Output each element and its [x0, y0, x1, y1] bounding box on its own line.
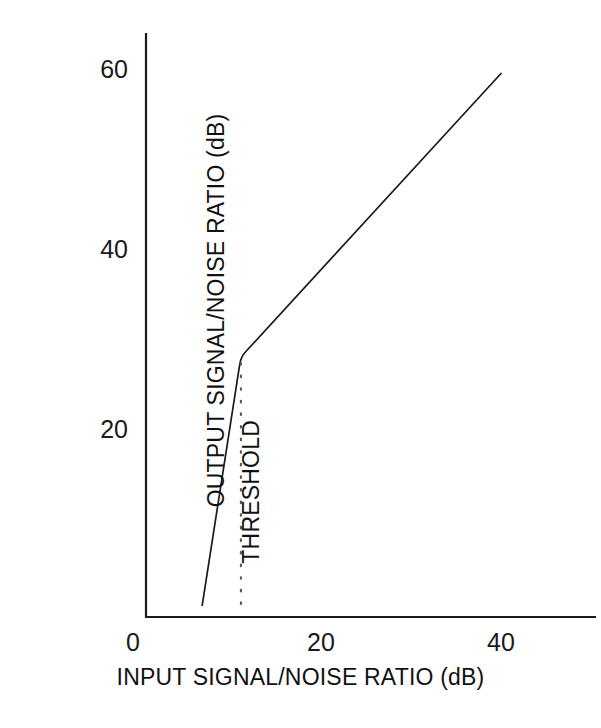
x-tick-label-0: 0	[126, 630, 140, 655]
x-tick-label-40: 40	[487, 630, 515, 655]
y-axis-title-container: OUTPUT SIGNAL/NOISE RATIO (dB)	[0, 0, 90, 620]
x-axis-title: INPUT SIGNAL/NOISE RATIO (dB)	[0, 666, 601, 689]
y-axis-title: OUTPUT SIGNAL/NOISE RATIO (dB)	[205, 113, 228, 507]
x-tick-label-20: 20	[307, 630, 335, 655]
plot-area	[0, 0, 601, 728]
threshold-annotation-label: THRESHOLD	[240, 420, 263, 564]
chart-figure: 60 40 20 0 20 40 OUTPUT SIGNAL/NOISE RAT…	[0, 0, 601, 728]
